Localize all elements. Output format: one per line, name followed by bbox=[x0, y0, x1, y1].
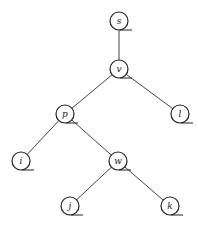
edge-p-w bbox=[72, 120, 112, 155]
tree-node-k: k bbox=[161, 197, 183, 215]
tree-node-j: j bbox=[61, 197, 83, 215]
tree-diagram: svpliwjk bbox=[0, 0, 198, 228]
tree-node-p: p bbox=[56, 105, 78, 123]
tree-nodes: svpliwjk bbox=[12, 12, 193, 215]
node-label: k bbox=[167, 201, 172, 211]
tree-edges bbox=[27, 30, 173, 200]
tree-node-i: i bbox=[12, 152, 34, 170]
node-label: i bbox=[20, 156, 23, 166]
figure-caption bbox=[0, 218, 198, 228]
node-label: s bbox=[117, 16, 122, 26]
tree-node-w: w bbox=[109, 152, 131, 170]
edge-v-p bbox=[72, 75, 112, 108]
tree-node-v: v bbox=[110, 60, 132, 78]
node-label: p bbox=[62, 109, 68, 119]
node-label: v bbox=[116, 64, 121, 74]
node-label: l bbox=[179, 109, 182, 119]
edge-v-l bbox=[126, 74, 173, 108]
edge-w-j bbox=[77, 167, 112, 200]
node-label: w bbox=[114, 156, 122, 166]
edge-p-i bbox=[27, 121, 59, 155]
edge-w-k bbox=[125, 167, 163, 200]
tree-node-l: l bbox=[171, 105, 193, 123]
tree-node-s: s bbox=[110, 12, 132, 30]
